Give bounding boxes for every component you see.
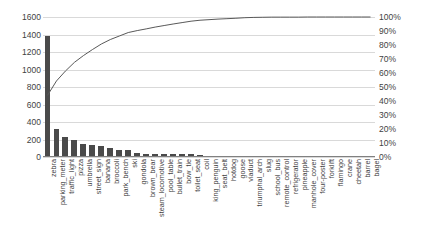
x-tick-label: bullet_train bbox=[176, 159, 183, 194]
x-tick-label: flamingo bbox=[337, 159, 344, 186]
x-tick-label: barrel bbox=[364, 159, 371, 177]
cumulative-line-path bbox=[47, 17, 370, 95]
x-tick-label: pineapple bbox=[301, 159, 308, 190]
y-tick-left: 400 bbox=[7, 118, 41, 127]
x-tick-label: umbrella bbox=[86, 159, 93, 187]
x-tick-label: steam_locomotive bbox=[158, 159, 165, 217]
y-tick-left: 800 bbox=[7, 83, 41, 92]
y-tick-right: 40% bbox=[379, 97, 419, 106]
x-tick-label: viaduct bbox=[247, 159, 254, 182]
x-tick-label: traffic_light bbox=[68, 159, 75, 194]
x-tick-label: king_penguin bbox=[212, 159, 219, 202]
x-tick-label: bagel bbox=[373, 159, 380, 177]
y-tick-left: 1400 bbox=[7, 30, 41, 39]
x-tick-label: slug bbox=[265, 159, 272, 172]
x-tick-label: broccoli bbox=[113, 159, 120, 184]
x-tick-label: goose bbox=[239, 159, 246, 179]
y-tick-right: 50% bbox=[379, 83, 419, 92]
pareto-chart: 02004006008001000120014001600 0%10%20%30… bbox=[0, 0, 423, 235]
x-tick-label: crane bbox=[346, 159, 353, 177]
y-tick-right: 10% bbox=[379, 139, 419, 148]
x-tick-label: bow_tie bbox=[185, 159, 192, 184]
y-tick-right: 30% bbox=[379, 111, 419, 120]
x-tick-label: pool_table bbox=[167, 159, 174, 192]
y-tick-right: 20% bbox=[379, 125, 419, 134]
x-tick-label: street_sign bbox=[95, 159, 102, 194]
y-tick-left: 200 bbox=[7, 135, 41, 144]
x-tick-label: brown_bear bbox=[149, 159, 156, 197]
x-tick-label: toilet_seat bbox=[194, 159, 201, 192]
x-tick-label: triumphal_arch bbox=[256, 159, 263, 207]
y-tick-right: 90% bbox=[379, 27, 419, 36]
cumulative-percent-line bbox=[43, 17, 375, 157]
x-tick-label: ski bbox=[131, 159, 138, 168]
y-tick-right: 100% bbox=[379, 13, 419, 22]
x-tick-label: four-poster bbox=[319, 159, 326, 194]
x-tick-label: hotdog bbox=[230, 159, 237, 181]
x-tick-label: pizza bbox=[77, 159, 84, 176]
x-tick-label: coil bbox=[203, 159, 210, 170]
x-tick-label: seat_belt bbox=[221, 159, 228, 188]
x-tick-label: zebra bbox=[50, 159, 57, 177]
y-tick-right: 0% bbox=[379, 153, 419, 162]
x-tick-label: banana bbox=[104, 159, 111, 183]
plot-area bbox=[43, 17, 375, 157]
x-tick-label: refrigerator bbox=[292, 159, 299, 194]
x-tick-label: cheetah bbox=[355, 159, 362, 185]
x-tick-label: school_bus bbox=[274, 159, 281, 195]
x-tick-label: remote_control bbox=[283, 159, 290, 207]
y-tick-right: 80% bbox=[379, 41, 419, 50]
x-axis-labels: zebraparking_metertraffic_lightpizzaumbr… bbox=[43, 159, 375, 235]
y-tick-left: 1600 bbox=[7, 13, 41, 22]
y-tick-right: 60% bbox=[379, 69, 419, 78]
y-tick-right: 70% bbox=[379, 55, 419, 64]
x-tick-label: forklift bbox=[328, 159, 335, 178]
x-axis-line bbox=[43, 156, 375, 157]
y-tick-left: 0 bbox=[7, 153, 41, 162]
x-tick-label: gondola bbox=[140, 159, 147, 185]
x-tick-label: manhole_cover bbox=[310, 159, 317, 208]
y-tick-left: 1000 bbox=[7, 65, 41, 74]
x-tick-label: park_bench bbox=[122, 159, 129, 197]
y-tick-left: 600 bbox=[7, 100, 41, 109]
x-tick-label: parking_meter bbox=[59, 159, 66, 205]
y-tick-left: 1200 bbox=[7, 48, 41, 57]
